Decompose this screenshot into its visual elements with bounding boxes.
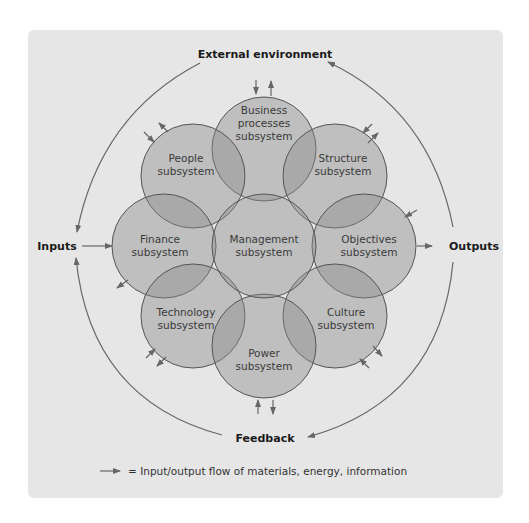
svg-text:subsystem: subsystem [158, 319, 215, 331]
svg-text:subsystem: subsystem [158, 165, 215, 177]
svg-text:People: People [169, 152, 204, 164]
svg-text:Business: Business [241, 104, 287, 116]
svg-text:subsystem: subsystem [341, 246, 398, 258]
inputs-label: Inputs [37, 240, 77, 253]
svg-text:Culture: Culture [327, 306, 365, 318]
svg-text:subsystem: subsystem [132, 246, 189, 258]
label-technology: Technology subsystem [156, 306, 216, 331]
svg-text:subsystem: subsystem [236, 246, 293, 258]
label-management: Management subsystem [229, 233, 298, 258]
svg-text:Finance: Finance [140, 233, 180, 245]
legend-text: = Input/output flow of materials, energy… [128, 465, 407, 477]
svg-text:subsystem: subsystem [236, 130, 293, 142]
circle-power [212, 294, 316, 398]
feedback-label: Feedback [236, 432, 296, 445]
svg-text:Objectives: Objectives [341, 233, 396, 245]
svg-text:Management: Management [229, 233, 298, 245]
svg-text:Structure: Structure [319, 152, 368, 164]
outputs-label: Outputs [449, 240, 499, 253]
label-objectives: Objectives subsystem [341, 233, 398, 258]
svg-text:processes: processes [238, 117, 290, 129]
external-environment-label: External environment [198, 48, 333, 61]
open-systems-diagram: External environment Inputs Outputs Feed… [0, 0, 529, 523]
label-structure: Structure subsystem [315, 152, 372, 177]
svg-text:subsystem: subsystem [318, 319, 375, 331]
label-business-processes: Business processes subsystem [236, 104, 293, 142]
svg-text:Technology: Technology [156, 306, 216, 318]
svg-text:subsystem: subsystem [236, 360, 293, 372]
svg-text:Power: Power [248, 347, 280, 359]
label-finance: Finance subsystem [132, 233, 189, 258]
svg-text:subsystem: subsystem [315, 165, 372, 177]
